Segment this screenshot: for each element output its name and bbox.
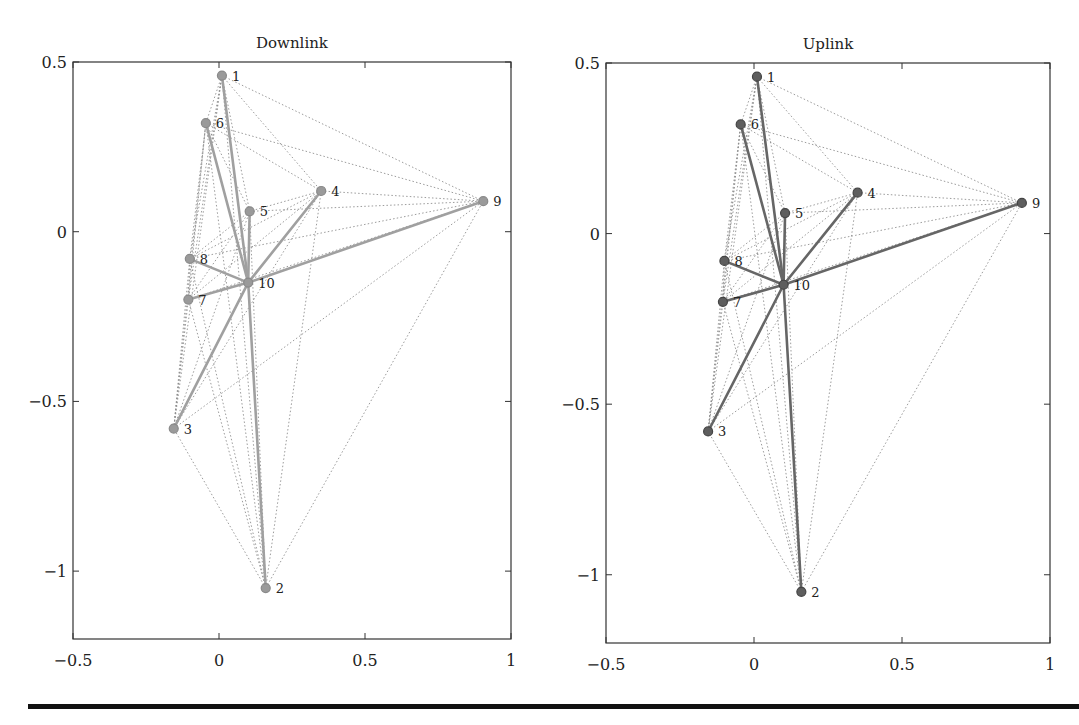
node-label: 2 [811, 585, 819, 600]
plot-frame [606, 63, 1050, 643]
node-label: 7 [733, 295, 741, 310]
node-10 [244, 278, 253, 287]
x-tick-label: 1 [506, 651, 516, 670]
y-tick-label: 0.5 [42, 53, 67, 72]
node-7 [184, 295, 193, 304]
node-label: 4 [331, 184, 339, 199]
node-3 [169, 424, 178, 433]
x-tick-label: 0 [214, 651, 224, 670]
panel-uplink: Uplink−0.500.510.50−0.5−112345678910 [561, 35, 1055, 674]
panel-title: Uplink [803, 35, 854, 53]
node-6 [201, 119, 210, 128]
node-label: 3 [184, 422, 192, 437]
node-label: 3 [718, 424, 726, 439]
node-2 [261, 584, 270, 593]
x-tick-label: 1 [1045, 655, 1055, 674]
x-tick-label: −0.5 [54, 651, 93, 670]
node-label: 8 [200, 252, 208, 267]
node-label: 10 [794, 278, 811, 293]
node-3 [704, 427, 713, 436]
node-4 [317, 186, 326, 195]
node-label: 2 [276, 581, 284, 596]
node-label: 5 [260, 204, 268, 219]
node-8 [720, 256, 729, 265]
plot-frame [73, 62, 511, 639]
node-9 [479, 197, 488, 206]
node-2 [797, 587, 806, 596]
figure: Downlink−0.500.510.50−0.5−112345678910Up… [0, 0, 1079, 725]
y-tick-label: −0.5 [28, 392, 67, 411]
x-tick-label: 0.5 [889, 655, 914, 674]
figure-svg: Downlink−0.500.510.50−0.5−112345678910Up… [0, 0, 1079, 725]
bottom-rule [28, 704, 1079, 709]
y-tick-label: 0 [57, 223, 67, 242]
solid-edges [708, 77, 1022, 592]
panel-downlink: Downlink−0.500.510.50−0.5−112345678910 [28, 34, 516, 670]
node-1 [217, 71, 226, 80]
x-tick-label: 0 [749, 655, 759, 674]
y-tick-label: −1 [43, 562, 67, 581]
dotted-edges [708, 77, 1022, 592]
solid-edges [174, 76, 484, 589]
node-5 [245, 207, 254, 216]
node-4 [853, 188, 862, 197]
node-label: 10 [258, 276, 275, 291]
node-6 [736, 120, 745, 129]
node-label: 6 [751, 117, 759, 132]
node-1 [752, 72, 761, 81]
x-tick-label: −0.5 [587, 655, 626, 674]
x-tick-label: 0.5 [352, 651, 377, 670]
node-label: 1 [767, 70, 775, 85]
node-7 [718, 297, 727, 306]
y-tick-label: −0.5 [561, 395, 600, 414]
node-label: 5 [795, 206, 803, 221]
panel-title: Downlink [256, 34, 329, 52]
node-5 [781, 209, 790, 218]
node-label: 9 [1032, 196, 1040, 211]
nodes: 12345678910 [169, 69, 501, 597]
node-10 [779, 280, 788, 289]
y-tick-label: 0.5 [575, 54, 600, 73]
node-label: 8 [734, 254, 742, 269]
y-tick-label: −1 [576, 566, 600, 585]
node-label: 7 [198, 293, 206, 308]
node-9 [1017, 198, 1026, 207]
node-8 [185, 254, 194, 263]
nodes: 12345678910 [704, 70, 1041, 600]
dotted-edges [174, 76, 484, 589]
y-tick-label: 0 [590, 225, 600, 244]
node-label: 6 [216, 116, 224, 131]
node-label: 9 [493, 194, 501, 209]
node-label: 4 [868, 186, 876, 201]
node-label: 1 [232, 69, 240, 84]
